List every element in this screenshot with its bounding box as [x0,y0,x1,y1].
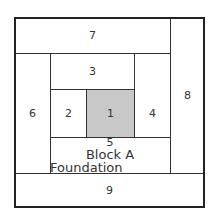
block-border [14,17,205,208]
